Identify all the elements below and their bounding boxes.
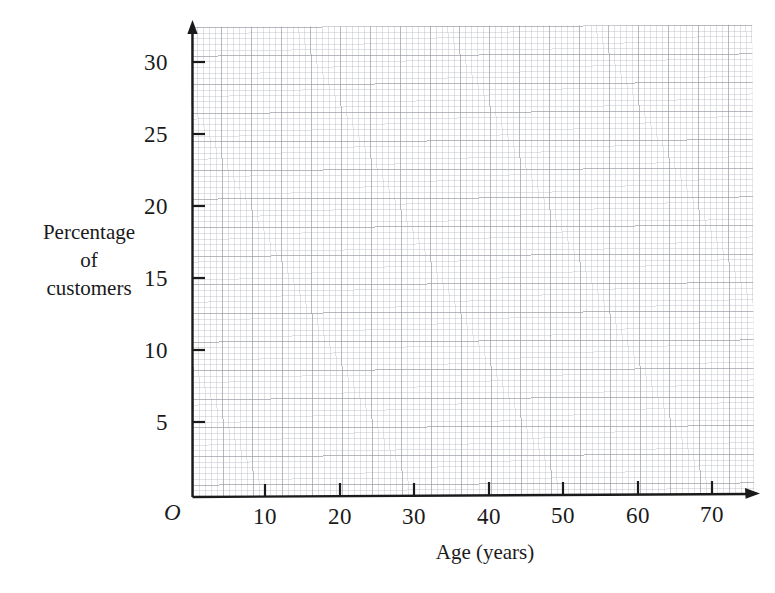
y-tick-label-25: 25	[122, 123, 168, 146]
x-axis-title: Age (years)	[330, 540, 640, 565]
y-axis-title-line-2: of	[8, 246, 170, 274]
y-tick-marks	[192, 62, 205, 422]
origin-label: O	[164, 500, 181, 526]
y-axis-arrowhead	[187, 20, 197, 34]
y-axis-title-line-3: customers	[8, 274, 170, 302]
graph-figure: O 5 10 15 20 25 30 10 20 30 40 50 60 70 …	[0, 0, 775, 593]
y-tick-label-30: 30	[122, 51, 168, 74]
x-tick-label-60: 60	[610, 504, 666, 527]
x-axis-line	[193, 494, 750, 497]
x-axis-arrowhead	[745, 488, 760, 499]
x-tick-label-50: 50	[535, 504, 591, 527]
x-tick-label-70: 70	[684, 503, 740, 526]
y-tick-label-5: 5	[122, 411, 168, 434]
y-tick-label-10: 10	[122, 339, 168, 362]
x-tick-label-40: 40	[461, 505, 517, 528]
y-tick-label-20: 20	[122, 195, 168, 218]
x-tick-label-20: 20	[312, 505, 368, 528]
x-tick-label-30: 30	[386, 505, 442, 528]
x-tick-label-10: 10	[237, 505, 293, 528]
y-axis-title: Percentage of customers	[8, 218, 170, 302]
y-axis-title-line-1: Percentage	[8, 218, 170, 246]
